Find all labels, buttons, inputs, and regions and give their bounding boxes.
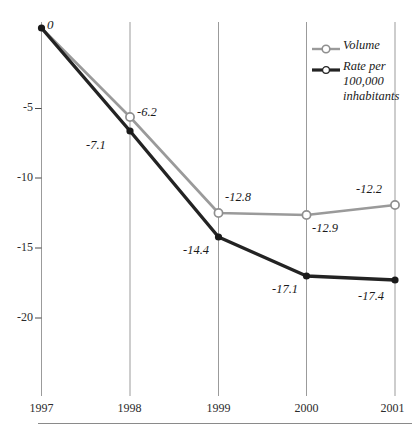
xtick-label-2001: 2001 xyxy=(365,401,420,416)
y-axis-ticks xyxy=(35,109,42,319)
legend-item-rate[interactable]: Rate per 100,000 inhabitants xyxy=(312,59,399,104)
ytick-label-minus15: -15 xyxy=(0,240,33,255)
volume-point-2000 xyxy=(302,211,310,219)
rate-point-1997 xyxy=(38,24,45,31)
rate-point-2000 xyxy=(303,272,310,279)
point-label-volume-2001: -12.2 xyxy=(356,182,382,197)
ytick-label-minus20: -20 xyxy=(0,310,33,325)
filled-circle-marker-icon xyxy=(312,62,340,74)
point-label-rate-2000: -17.1 xyxy=(272,282,298,297)
point-label-rate-2001: -17.4 xyxy=(358,289,384,304)
point-label-rate-1998: -7.1 xyxy=(86,138,106,153)
rate-point-1998 xyxy=(126,127,133,134)
legend-label-rate-line2: 100,000 xyxy=(343,74,384,88)
point-label-rate-1999: -14.4 xyxy=(183,243,209,258)
footer-divider xyxy=(38,423,412,424)
chart-container: -5 -10 -15 -20 1997 1998 1999 2000 2001 … xyxy=(0,0,420,435)
legend-label-rate-line1: Rate per xyxy=(343,59,386,73)
legend-item-volume[interactable]: Volume xyxy=(312,38,380,53)
ytick-label-minus10: -10 xyxy=(0,170,33,185)
legend-label-rate-line3: inhabitants xyxy=(343,89,399,103)
point-label-volume-1999: -12.8 xyxy=(225,190,251,205)
ytick-label-minus5: -5 xyxy=(0,100,33,115)
rate-point-2001 xyxy=(391,276,398,283)
point-label-origin: 0 xyxy=(47,17,54,33)
xtick-label-1999: 1999 xyxy=(191,401,246,416)
point-label-volume-2000: -12.9 xyxy=(312,221,338,236)
xtick-label-1997: 1997 xyxy=(14,401,69,416)
xtick-label-1998: 1998 xyxy=(102,401,157,416)
volume-point-1998 xyxy=(126,113,134,121)
chart-legend: Volume Rate per 100,000 inhabitants xyxy=(306,28,395,120)
legend-label-volume: Volume xyxy=(343,38,380,53)
open-circle-marker-icon xyxy=(312,41,340,53)
xtick-label-2000: 2000 xyxy=(279,401,334,416)
legend-label-rate: Rate per 100,000 inhabitants xyxy=(343,59,399,104)
volume-point-2001 xyxy=(391,201,399,209)
point-label-volume-1998: -6.2 xyxy=(137,105,157,120)
volume-point-1999 xyxy=(214,209,222,217)
rate-point-1999 xyxy=(215,233,222,240)
